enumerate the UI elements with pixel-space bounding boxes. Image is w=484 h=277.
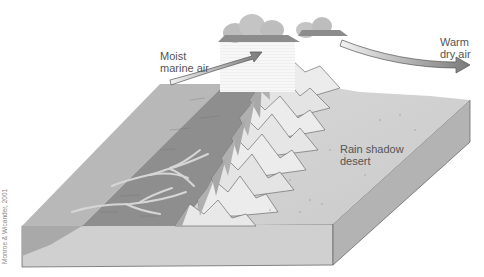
rain-shadow-desert-label: Rain shadow desert [340, 143, 404, 167]
image-credit: Monroe & Wicander, 2001 [1, 189, 8, 264]
cloud-icon [218, 14, 348, 43]
warm-dry-air-label: Warm dry air [440, 36, 471, 60]
block-front-face [22, 224, 333, 267]
rain-shower [220, 40, 295, 92]
rain-shadow-diagram [0, 0, 484, 277]
moist-marine-air-label: Moist marine air [160, 50, 209, 74]
